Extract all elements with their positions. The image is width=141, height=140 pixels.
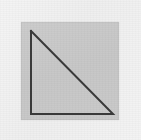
figure-canvas <box>0 0 141 140</box>
inner-gray-panel <box>21 22 119 120</box>
